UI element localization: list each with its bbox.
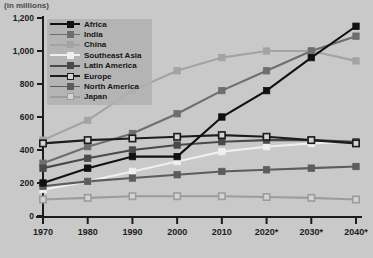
legend-swatch-icon: [50, 30, 80, 39]
data-point-japan: [174, 193, 180, 199]
legend-line: [50, 34, 80, 36]
legend-label: Europe: [84, 72, 112, 81]
data-point-latin-america: [85, 155, 91, 161]
data-point-southeast-asia: [263, 144, 269, 150]
data-point-india: [353, 33, 359, 39]
data-point-china: [174, 68, 180, 74]
data-point-africa: [353, 23, 359, 29]
legend-label: Japan: [84, 92, 107, 101]
data-point-north-america: [219, 168, 225, 174]
legend-swatch-icon: [50, 40, 80, 49]
data-point-china: [263, 48, 269, 54]
legend-line: [50, 23, 80, 25]
legend-label: Africa: [84, 20, 107, 29]
data-point-japan: [219, 193, 225, 199]
legend-marker: [67, 62, 74, 69]
legend-item-north-america[interactable]: North America: [47, 81, 152, 91]
x-tick-label: 2040*: [333, 227, 373, 237]
data-point-africa: [219, 114, 225, 120]
data-point-japan: [308, 195, 314, 201]
data-point-north-america: [308, 165, 314, 171]
legend-line: [50, 54, 80, 56]
data-point-southeast-asia: [129, 168, 135, 174]
data-point-china: [219, 54, 225, 60]
legend-label: Latin America: [84, 61, 137, 70]
legend-swatch-icon: [50, 92, 80, 101]
y-tick-label: 400: [0, 145, 34, 155]
data-point-europe: [85, 137, 91, 143]
data-point-africa: [85, 165, 91, 171]
y-tick-label: 0: [0, 211, 34, 221]
data-point-india: [219, 87, 225, 93]
legend-item-japan[interactable]: Japan: [47, 92, 152, 102]
legend-marker: [67, 83, 74, 90]
legend-marker: [67, 93, 74, 100]
legend-marker: [67, 21, 74, 28]
legend-label: China: [84, 40, 106, 49]
data-point-china: [353, 58, 359, 64]
data-point-africa: [129, 153, 135, 159]
data-point-india: [174, 111, 180, 117]
data-point-europe: [129, 135, 135, 141]
legend-marker: [67, 31, 74, 38]
legend-item-southeast-asia[interactable]: Southeast Asia: [47, 50, 152, 60]
legend-item-latin-america[interactable]: Latin America: [47, 61, 152, 71]
data-point-north-america: [129, 175, 135, 181]
legend-line: [50, 65, 80, 67]
legend-item-india[interactable]: India: [47, 29, 152, 39]
data-point-africa: [308, 54, 314, 60]
data-point-japan: [40, 196, 46, 202]
data-point-japan: [129, 193, 135, 199]
y-tick-label: 200: [0, 178, 34, 188]
data-point-africa: [40, 180, 46, 186]
legend-line: [50, 86, 80, 88]
data-point-southeast-asia: [219, 148, 225, 154]
legend-swatch-icon: [50, 20, 80, 29]
legend-item-europe[interactable]: Europe: [47, 71, 152, 81]
y-tick-label: 1,000: [0, 46, 34, 56]
legend-label: North America: [84, 82, 139, 91]
chart-legend: AfricaIndiaChinaSoutheast AsiaLatin Amer…: [47, 19, 152, 105]
legend-line: [50, 75, 80, 77]
y-tick-label: 1,200: [0, 13, 34, 23]
data-point-africa: [174, 153, 180, 159]
data-point-latin-america: [174, 142, 180, 148]
data-point-india: [308, 48, 314, 54]
data-point-europe: [263, 134, 269, 140]
data-point-europe: [353, 140, 359, 146]
data-point-europe: [308, 137, 314, 143]
x-tick-label: 1980: [65, 227, 111, 237]
data-point-north-america: [353, 163, 359, 169]
data-point-india: [263, 68, 269, 74]
legend-item-china[interactable]: China: [47, 40, 152, 50]
data-point-north-america: [174, 172, 180, 178]
data-point-china: [85, 117, 91, 123]
legend-item-africa[interactable]: Africa: [47, 19, 152, 29]
data-point-india: [85, 144, 91, 150]
legend-marker: [67, 41, 74, 48]
y-tick-label: 800: [0, 79, 34, 89]
legend-marker: [67, 52, 74, 59]
data-point-japan: [85, 195, 91, 201]
legend-swatch-icon: [50, 51, 80, 60]
legend-swatch-icon: [50, 61, 80, 70]
x-tick-label: 1990: [109, 227, 155, 237]
legend-label: India: [84, 30, 103, 39]
data-point-japan: [263, 194, 269, 200]
data-point-north-america: [85, 178, 91, 184]
legend-marker: [67, 73, 74, 80]
legend-line: [50, 44, 80, 46]
data-point-latin-america: [40, 165, 46, 171]
data-point-europe: [219, 132, 225, 138]
data-point-europe: [174, 134, 180, 140]
x-tick-label: 2010: [199, 227, 245, 237]
data-point-latin-america: [219, 139, 225, 145]
x-tick-label: 1970: [20, 227, 66, 237]
data-point-north-america: [263, 167, 269, 173]
x-tick-label: 2020*: [244, 227, 290, 237]
data-point-africa: [263, 87, 269, 93]
data-point-latin-america: [129, 147, 135, 153]
legend-line: [50, 96, 80, 98]
x-tick-label: 2030*: [288, 227, 334, 237]
